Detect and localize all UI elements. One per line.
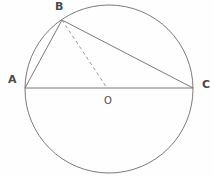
segment-ab bbox=[25, 20, 62, 88]
segment-bo-dashed bbox=[62, 20, 107, 88]
geometry-canvas bbox=[0, 0, 214, 178]
vertex-label-b: B bbox=[55, 1, 63, 12]
center-label-o: O bbox=[104, 96, 112, 106]
segment-bc bbox=[62, 20, 193, 88]
geometry-figure: A B C O bbox=[0, 0, 214, 178]
circle-outline bbox=[25, 5, 193, 173]
vertex-label-a: A bbox=[8, 74, 17, 85]
vertex-label-c: C bbox=[202, 79, 210, 90]
